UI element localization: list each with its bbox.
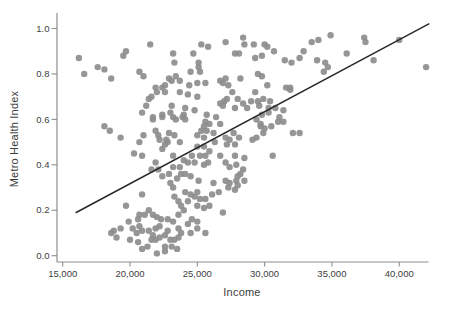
- data-point: [135, 239, 141, 245]
- data-point: [107, 128, 113, 134]
- data-point: [156, 223, 162, 229]
- data-point: [220, 209, 226, 215]
- data-point: [173, 116, 179, 122]
- data-point: [150, 114, 156, 120]
- data-point: [179, 114, 185, 120]
- data-point: [225, 184, 231, 190]
- data-point: [233, 162, 239, 168]
- data-point: [177, 78, 183, 84]
- data-point: [206, 148, 212, 154]
- data-point: [321, 69, 327, 75]
- data-point: [108, 230, 114, 236]
- data-point: [156, 137, 162, 143]
- data-point: [159, 173, 165, 179]
- data-point: [170, 50, 176, 56]
- y-axis-title: Metro Health Index: [8, 91, 20, 188]
- data-point: [224, 141, 230, 147]
- data-point: [251, 41, 257, 47]
- data-point: [240, 100, 246, 106]
- data-point: [240, 34, 246, 40]
- data-point: [216, 189, 222, 195]
- data-point: [201, 123, 207, 129]
- data-point: [210, 180, 216, 186]
- data-point: [209, 191, 215, 197]
- data-point: [169, 103, 175, 109]
- data-point: [194, 218, 200, 224]
- data-point: [264, 82, 270, 88]
- data-point: [226, 164, 232, 170]
- data-point: [194, 132, 200, 138]
- data-point: [237, 75, 243, 81]
- data-point: [296, 130, 302, 136]
- data-point: [213, 114, 219, 120]
- data-point: [241, 178, 247, 184]
- data-point: [217, 121, 223, 127]
- data-point: [290, 130, 296, 136]
- data-point: [287, 87, 293, 93]
- data-point: [237, 171, 243, 177]
- data-point: [117, 225, 123, 231]
- data-point: [264, 44, 270, 50]
- data-point: [224, 96, 230, 102]
- data-point: [136, 139, 142, 145]
- data-point: [232, 141, 238, 147]
- data-point: [210, 130, 216, 136]
- data-point: [423, 64, 429, 70]
- data-point: [185, 221, 191, 227]
- data-point: [296, 55, 302, 61]
- data-point: [257, 121, 263, 127]
- data-point: [230, 130, 236, 136]
- data-point: [170, 153, 176, 159]
- data-point: [205, 159, 211, 165]
- data-point: [197, 69, 203, 75]
- y-tick-label: 0.8: [36, 68, 49, 79]
- data-point: [123, 203, 129, 209]
- data-point: [202, 230, 208, 236]
- data-point: [235, 182, 241, 188]
- data-point: [139, 153, 145, 159]
- data-point: [222, 134, 228, 140]
- data-point: [152, 84, 158, 90]
- data-point: [117, 134, 123, 140]
- data-point: [131, 150, 137, 156]
- data-point: [181, 207, 187, 213]
- data-point: [271, 48, 277, 54]
- data-point: [140, 132, 146, 138]
- data-point: [220, 103, 226, 109]
- data-point: [187, 69, 193, 75]
- data-point: [159, 112, 165, 118]
- data-point: [315, 37, 321, 43]
- data-point: [126, 218, 132, 224]
- data-point: [139, 109, 145, 115]
- data-point: [185, 159, 191, 165]
- data-point: [135, 216, 141, 222]
- data-point: [217, 153, 223, 159]
- data-point: [194, 203, 200, 209]
- data-point: [152, 128, 158, 134]
- data-point: [108, 75, 114, 81]
- data-point: [202, 80, 208, 86]
- x-tick-label: 20,000: [115, 268, 144, 279]
- data-point: [260, 130, 266, 136]
- y-tick-label: 0.6: [36, 114, 49, 125]
- x-tick-label: 35,000: [317, 268, 346, 279]
- data-point: [260, 96, 266, 102]
- data-point: [162, 82, 168, 88]
- data-point: [152, 159, 158, 165]
- data-point: [267, 98, 273, 104]
- trend-line: [76, 24, 429, 213]
- data-point: [178, 230, 184, 236]
- x-axis-title: Income: [223, 286, 260, 298]
- data-point: [268, 123, 274, 129]
- data-point: [113, 234, 119, 240]
- data-point: [166, 75, 172, 81]
- data-point: [162, 141, 168, 147]
- data-point: [249, 137, 255, 143]
- data-point: [205, 44, 211, 50]
- data-point: [191, 159, 197, 165]
- data-point: [314, 57, 320, 63]
- scatter-chart: 15,00020,00025,00030,00035,00040,0000.00…: [0, 0, 450, 315]
- data-point: [177, 139, 183, 145]
- data-point: [362, 39, 368, 45]
- data-point: [189, 153, 195, 159]
